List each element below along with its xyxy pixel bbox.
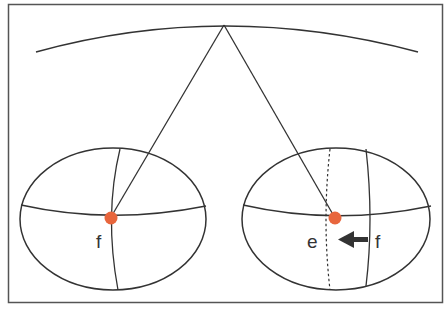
left-ray: [111, 25, 224, 217]
left-arrow-icon: [338, 231, 368, 248]
right-point-label-f: f: [375, 231, 381, 252]
diagram-canvas: f e f: [0, 0, 446, 312]
right-ray: [224, 25, 335, 218]
right-meridian: [366, 149, 370, 286]
left-point-label: f: [96, 231, 102, 252]
right-point-label-e: e: [307, 231, 318, 252]
frame-border: [9, 5, 443, 303]
left-globe: f: [20, 148, 206, 290]
right-point: [329, 212, 342, 225]
left-point: [105, 212, 118, 225]
right-globe: e f: [242, 148, 431, 290]
